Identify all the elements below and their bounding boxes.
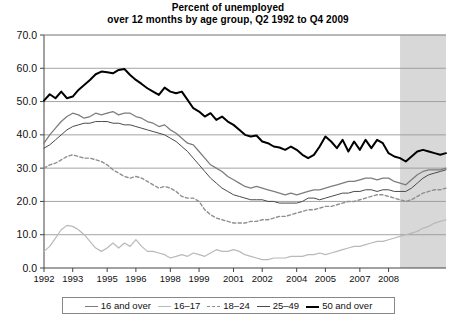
svg-text:30.0: 30.0	[17, 162, 38, 174]
legend-swatch-icon	[158, 303, 171, 309]
svg-text:1995: 1995	[97, 273, 118, 284]
shaded-recession-band	[400, 35, 446, 268]
svg-text:40.0: 40.0	[17, 128, 38, 140]
legend-item-label: 50 and over	[322, 300, 372, 311]
axis-lines	[44, 35, 446, 268]
svg-text:50.0: 50.0	[17, 95, 38, 107]
legend-item[interactable]: 50 and over	[306, 300, 372, 311]
legend-swatch-icon	[306, 303, 319, 309]
svg-text:10.0: 10.0	[17, 228, 38, 240]
svg-text:0.0: 0.0	[22, 262, 37, 274]
svg-text:2008: 2008	[378, 273, 399, 284]
legend-item-label: 16 and over	[101, 300, 151, 311]
x-axis-tick-labels: 1992199319951996199819992001200220042005…	[33, 273, 399, 284]
svg-text:2002: 2002	[252, 273, 273, 284]
svg-text:1999: 1999	[188, 273, 209, 284]
y-axis-ticks	[40, 35, 44, 268]
legend-swatch-icon	[257, 303, 270, 309]
svg-text:70.0: 70.0	[17, 29, 38, 41]
data-series-group	[44, 69, 446, 260]
svg-text:2004: 2004	[286, 273, 307, 284]
svg-text:60.0: 60.0	[17, 62, 38, 74]
series-line	[44, 155, 446, 223]
series-line	[44, 69, 446, 162]
chart-root: Percent of unemployed over 12 months by …	[0, 0, 456, 325]
y-axis-tick-labels: 0.010.020.030.040.050.060.070.0	[17, 29, 38, 274]
legend-item-label: 25–49	[273, 300, 299, 311]
legend-item[interactable]: 16–17	[158, 300, 200, 311]
legend-item[interactable]: 16 and over	[85, 300, 151, 311]
svg-text:2001: 2001	[223, 273, 244, 284]
svg-text:2007: 2007	[349, 273, 370, 284]
series-line	[44, 112, 446, 195]
legend-swatch-icon	[85, 303, 98, 309]
legend-swatch-icon	[207, 303, 220, 309]
legend-item[interactable]: 25–49	[257, 300, 299, 311]
legend-item-label: 16–17	[174, 300, 200, 311]
svg-text:1996: 1996	[125, 273, 146, 284]
x-axis-ticks	[44, 268, 389, 272]
chart-legend: 16 and over16–1718–2425–4950 and over	[62, 297, 395, 314]
line-chart-plot: 0.010.020.030.040.050.060.070.0 19921993…	[0, 0, 456, 325]
legend-item[interactable]: 18–24	[207, 300, 249, 311]
svg-text:2005: 2005	[315, 273, 336, 284]
svg-text:1993: 1993	[62, 273, 83, 284]
legend-item-label: 18–24	[223, 300, 249, 311]
series-line	[44, 220, 446, 260]
svg-text:1992: 1992	[33, 273, 54, 284]
svg-text:1998: 1998	[160, 273, 181, 284]
svg-text:20.0: 20.0	[17, 195, 38, 207]
